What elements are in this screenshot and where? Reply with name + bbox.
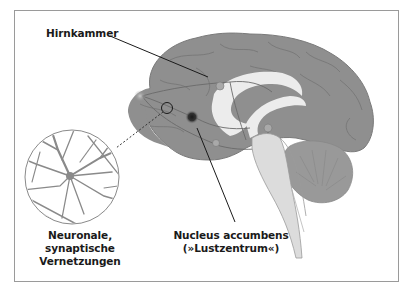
cerebellum xyxy=(283,141,352,203)
label-neuronal-line1: Neuronale, synaptische xyxy=(18,229,142,255)
label-nucleus-accumbens: Nucleus accumbens (»Lustzentrum«) xyxy=(166,229,296,255)
neuron-network-inset xyxy=(22,130,120,230)
nucleus-accumbens-marker xyxy=(185,110,199,124)
label-hirnkammer: Hirnkammer xyxy=(46,27,118,40)
label-nucleus-line2: (»Lustzentrum«) xyxy=(166,242,296,255)
label-nucleus-line1: Nucleus accumbens xyxy=(166,229,296,242)
label-neuronal-networks: Neuronale, synaptische Vernetzungen xyxy=(18,229,142,268)
label-neuronal-line2: Vernetzungen xyxy=(18,255,142,268)
